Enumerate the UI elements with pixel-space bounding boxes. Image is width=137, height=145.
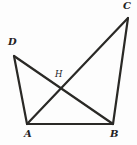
segment-DB — [14, 56, 113, 124]
geometry-canvas — [0, 0, 137, 145]
vertex-label-H: H — [55, 69, 62, 79]
vertex-label-D: D — [8, 37, 17, 47]
segment-AC — [27, 18, 128, 124]
geometry-figure: D H C A B — [0, 0, 137, 145]
segment-AD — [14, 56, 27, 124]
vertex-label-B: B — [110, 129, 118, 139]
segment-BC — [113, 18, 128, 124]
vertex-label-A: A — [24, 129, 32, 139]
vertex-label-C: C — [123, 1, 131, 11]
